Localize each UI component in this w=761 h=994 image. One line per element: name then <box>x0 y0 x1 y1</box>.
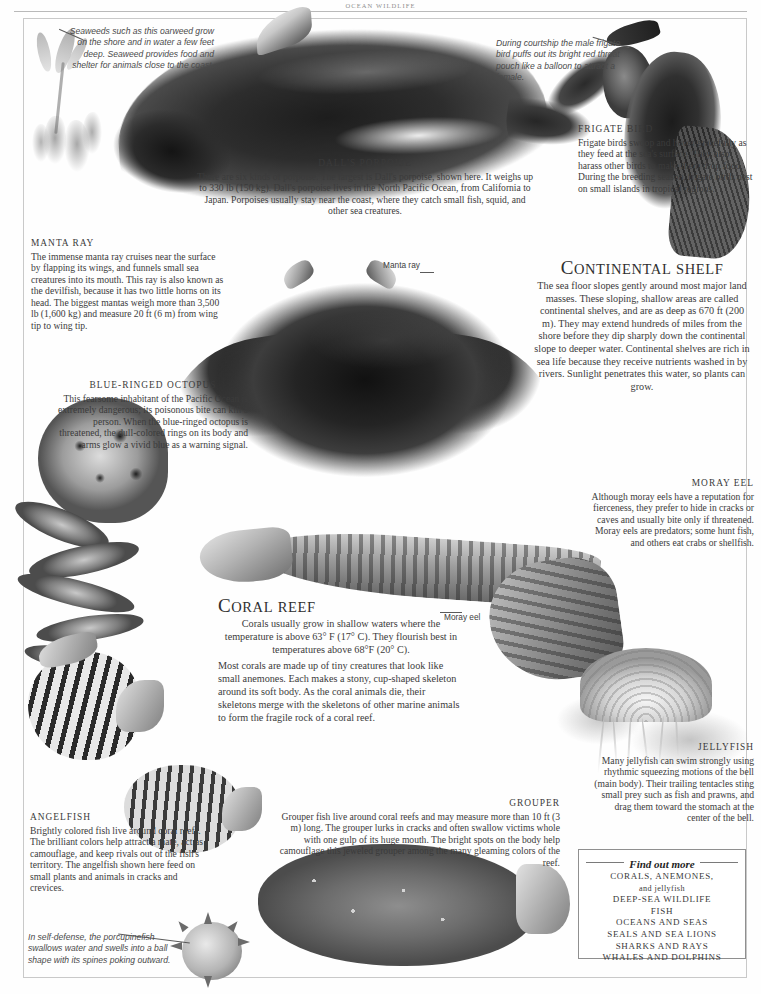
find-out-more-item[interactable]: SHARKS AND RAYS <box>579 941 745 953</box>
find-out-more-item-sub: and jellyfish <box>639 884 685 893</box>
frigate-bird-body: Frigate birds swoop and hover gracefully… <box>578 137 754 195</box>
coral-reef-heading-tail: REEF <box>278 599 316 615</box>
find-out-more-item[interactable]: FISH <box>579 906 745 918</box>
running-head: OCEAN WILDLIFE <box>0 0 761 14</box>
angelfish-heading: ANGELFISH <box>30 812 206 824</box>
manta-ray-body: The immense manta ray cruises near the s… <box>31 251 227 332</box>
dalls-porpoise-article: DALL'S PORPOISE There are six kinds of p… <box>195 158 535 217</box>
manta-ray-article: MANTA RAY The immense manta ray cruises … <box>31 238 227 332</box>
continental-shelf-heading: CONTINENTAL SHELF <box>533 258 751 277</box>
blue-ringed-octopus-heading: BLUE-RINGED OCTOPUS <box>58 380 248 392</box>
find-out-more-list: CORALS, ANEMONES, and jellyfish DEEP-SEA… <box>579 871 745 964</box>
find-out-more-item[interactable]: SEALS AND SEA LIONS <box>579 929 745 941</box>
find-out-more-box: Find out more CORALS, ANEMONES, and jell… <box>578 849 746 959</box>
moray-eel-article: MORAY EEL Although moray eels have a rep… <box>582 478 754 548</box>
coral-reef-heading-initial: C <box>218 595 231 616</box>
angelfish-article: ANGELFISH Brightly colored fish live aro… <box>30 812 206 894</box>
continental-shelf-heading-rest: ONTINENTAL <box>574 261 671 277</box>
find-out-more-item[interactable]: DEEP-SEA WILDLIFE <box>579 894 745 906</box>
moray-eel-body: Although moray eels have a reputation fo… <box>582 491 754 549</box>
find-out-more-item[interactable]: WHALES AND DOLPHINS <box>579 952 745 964</box>
blue-ringed-octopus-article: BLUE-RINGED OCTOPUS This fearsome inhabi… <box>58 380 248 450</box>
continental-shelf-article: CONTINENTAL SHELF The sea floor slopes g… <box>533 258 751 393</box>
find-out-more-item-main: OCEANS AND SEAS <box>616 917 708 927</box>
manta-ray-heading: MANTA RAY <box>31 238 227 250</box>
continental-shelf-body: The sea floor slopes gently around most … <box>533 280 751 393</box>
jellyfish-body: Many jellyfish can swim strongly using r… <box>592 755 754 825</box>
continental-shelf-heading-initial: C <box>561 257 574 278</box>
blue-ringed-octopus-body: This fearsome inhabitant of the Pacific … <box>58 393 248 451</box>
coral-reef-article: CORAL REEF Corals usually grow in shallo… <box>218 596 464 724</box>
find-out-more-item-main: FISH <box>651 906 673 916</box>
grouper-article: GROUPER Grouper fish live around coral r… <box>278 798 560 868</box>
frigate-courtship-caption: During courtship the male frigate bird p… <box>496 38 636 84</box>
coral-reef-heading-rest: ORAL <box>231 599 273 615</box>
porcupinefish-caption: In self-defense, the porcupinefish swall… <box>28 932 188 966</box>
find-out-more-title: Find out more <box>624 858 699 870</box>
manta-label-leader-line <box>420 272 434 273</box>
angelfish-body: Brightly colored fish live around coral … <box>30 825 206 895</box>
find-out-more-item[interactable]: OCEANS AND SEAS <box>579 917 745 929</box>
coral-reef-body-1: Corals usually grow in shallow waters wh… <box>218 618 464 656</box>
running-head-rule <box>14 11 747 12</box>
running-head-text: OCEAN WILDLIFE <box>0 0 761 10</box>
find-out-more-title-row: Find out more <box>579 854 745 870</box>
grouper-heading: GROUPER <box>278 798 560 810</box>
coral-reef-body-2: Most corals are made up of tiny creature… <box>218 660 464 724</box>
find-out-more-item-main: DEEP-SEA WILDLIFE <box>613 894 711 904</box>
frigate-bird-heading: FRIGATE BIRD <box>578 124 754 136</box>
encyclopedia-page: OCEAN WILDLIFE <box>0 0 761 994</box>
frigate-bird-article: FRIGATE BIRD Frigate birds swoop and hov… <box>578 124 754 194</box>
moray-eel-heading: MORAY EEL <box>582 478 754 490</box>
grouper-body: Grouper fish live around coral reefs and… <box>278 811 560 869</box>
dalls-porpoise-body: There are six kinds of porpoise. The lar… <box>195 171 535 217</box>
manta-ray-label: Manta ray <box>383 260 453 270</box>
seaweed-caption: Seaweeds such as this oarweed grow on th… <box>62 26 214 72</box>
jellyfish-article: JELLYFISH Many jellyfish can swim strong… <box>592 742 754 824</box>
find-out-more-item-main: CORALS, ANEMONES, <box>610 871 714 881</box>
find-out-more-item[interactable]: CORALS, ANEMONES, and jellyfish <box>579 871 745 894</box>
coral-reef-heading: CORAL REEF <box>218 596 464 615</box>
dalls-porpoise-heading: DALL'S PORPOISE <box>195 158 535 170</box>
find-out-more-item-main: SHARKS AND RAYS <box>616 941 709 951</box>
find-out-more-item-main: WHALES AND DOLPHINS <box>603 952 722 962</box>
continental-shelf-heading-tail: SHELF <box>676 261 723 277</box>
jellyfish-heading: JELLYFISH <box>592 742 754 754</box>
find-out-more-item-main: SEALS AND SEA LIONS <box>607 929 717 939</box>
